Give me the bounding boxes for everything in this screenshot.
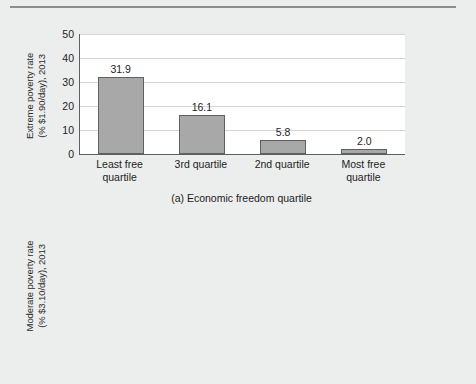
x-axis-label-line: Least free [79,158,160,171]
x-axis-label: Least freequartile [79,158,160,183]
chart-panel-a: Extreme poverty rate (% $1.90/day), 2013… [0,12,476,187]
x-axis-label: Most freequartile [323,158,404,183]
y-axis-label-a-line2: (% $1.90/day), 2013 [36,30,48,162]
bar-value-label: 5.8 [243,127,324,138]
bar-value-label: 31.9 [80,64,161,75]
bar-cell: 16.1 [161,34,242,154]
y-axis-label-b: Moderate poverty rate (% $3.10/day), 201… [24,220,47,352]
bar-cell: 2.0 [324,34,405,154]
y-axis-label-b-line2: (% $3.10/day), 2013 [36,220,48,352]
y-tick-a-30: 30 [62,77,74,87]
bar [179,115,225,154]
y-axis-label-a-line1: Extreme poverty rate [24,30,36,162]
x-axis-label-line: quartile [323,171,404,184]
x-axis-label-line: quartile [79,171,160,184]
top-divider-rule [10,6,456,8]
bar-value-label: 16.1 [161,102,242,113]
bar-value-label: 2.0 [324,136,405,147]
x-axis-label: 2nd quartile [242,158,323,183]
x-axis-label-line: 3rd quartile [160,158,241,171]
plot-area-a: 31.916.15.82.0 [79,34,405,155]
figure-page: Extreme poverty rate (% $1.90/day), 2013… [0,0,476,384]
x-axis-label-line: Most free [323,158,404,171]
x-axis-label-line: 2nd quartile [242,158,323,171]
y-axis-label-b-line1: Moderate poverty rate [24,220,36,352]
bar [98,77,144,154]
y-tick-a-50: 50 [62,29,74,39]
y-axis-label-a: Extreme poverty rate (% $1.90/day), 2013 [24,30,47,162]
x-axis-label: 3rd quartile [160,158,241,183]
bar-cell: 5.8 [243,34,324,154]
bar-series-a: 31.916.15.82.0 [80,34,405,154]
x-axis-labels-a: Least freequartile3rd quartile2nd quarti… [79,158,404,183]
chart-panel-b: Moderate poverty rate (% $3.10/day), 201… [0,200,476,384]
y-tick-a-40: 40 [62,53,74,63]
y-tick-a-20: 20 [62,101,74,111]
y-tick-a-0: 0 [68,149,74,159]
bar [260,140,306,154]
bar-cell: 31.9 [80,34,161,154]
bar [341,149,387,154]
y-tick-a-10: 10 [62,125,74,135]
